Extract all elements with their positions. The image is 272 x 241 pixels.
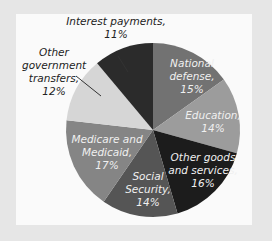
label-line: 15% bbox=[154, 83, 230, 96]
label-line: 14% bbox=[180, 122, 246, 135]
label-education: Education, 14% bbox=[180, 109, 246, 135]
label-line: 17% bbox=[70, 159, 144, 172]
label-other-goods-services: Other goods and services, 16% bbox=[166, 151, 240, 190]
label-line: Interest payments, bbox=[56, 15, 176, 28]
label-line: government bbox=[22, 59, 86, 72]
label-line: Other goods bbox=[166, 151, 240, 164]
label-social-security: Social Security, 14% bbox=[120, 170, 176, 209]
label-line: Security, bbox=[120, 183, 176, 196]
label-line: 14% bbox=[120, 196, 176, 209]
label-line: 12% bbox=[22, 85, 86, 98]
label-interest-payments: Interest payments, 11% bbox=[56, 15, 176, 41]
label-national-defense: National defense, 15% bbox=[154, 57, 230, 96]
label-line: transfers, bbox=[22, 72, 86, 85]
label-line: Other bbox=[22, 46, 86, 59]
label-line: Medicaid, bbox=[70, 146, 144, 159]
label-line: 11% bbox=[56, 28, 176, 41]
label-line: Education, bbox=[180, 109, 246, 122]
label-line: Medicare and bbox=[70, 133, 144, 146]
label-line: 16% bbox=[166, 177, 240, 190]
label-line: and services, bbox=[166, 164, 240, 177]
label-line: National bbox=[154, 57, 230, 70]
label-line: defense, bbox=[154, 70, 230, 83]
label-other-government-transfers: Other government transfers, 12% bbox=[22, 46, 86, 98]
label-medicare-medicaid: Medicare and Medicaid, 17% bbox=[70, 133, 144, 172]
